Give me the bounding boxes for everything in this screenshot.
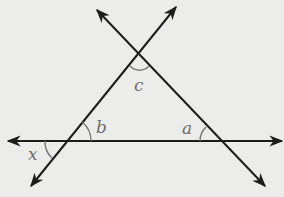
angle-x-label: x xyxy=(28,144,38,164)
falling-line xyxy=(97,10,265,186)
angle-b-label: b xyxy=(96,117,107,137)
angle-a-label: a xyxy=(182,118,192,138)
angle-c-arc xyxy=(130,66,149,70)
rising-line xyxy=(31,7,176,186)
angle-b-arc xyxy=(82,122,91,141)
triangle-angle-diagram: c b a x xyxy=(0,0,284,197)
angle-c-label: c xyxy=(134,75,144,95)
angle-x-arc xyxy=(45,141,52,158)
angle-a-arc xyxy=(200,127,206,141)
